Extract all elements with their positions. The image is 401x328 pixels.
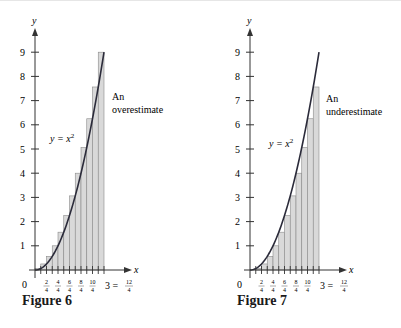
svg-text:2: 2 xyxy=(45,279,48,285)
svg-text:12: 12 xyxy=(341,279,347,285)
y-tick-label: 5 xyxy=(235,144,240,155)
y-tick-label: 7 xyxy=(235,95,240,106)
riemann-bar xyxy=(285,216,291,270)
y-tick-label: 1 xyxy=(235,240,240,251)
y-tick-label: 2 xyxy=(235,216,240,227)
x-tick-fraction: 104 xyxy=(305,279,311,293)
y-tick-label: 9 xyxy=(235,47,240,58)
svg-text:4: 4 xyxy=(57,279,60,285)
svg-text:4: 4 xyxy=(306,287,309,293)
figure-6-caption: Figure 6 xyxy=(22,293,72,309)
riemann-bar xyxy=(302,147,308,270)
annotation-line-2: overestimate xyxy=(112,104,164,115)
x-tick-fraction: 24 xyxy=(259,279,265,293)
svg-text:12: 12 xyxy=(126,279,132,285)
svg-text:3 =: 3 = xyxy=(320,280,334,291)
riemann-bars xyxy=(256,87,319,270)
annotation-line-1: An xyxy=(326,93,338,104)
svg-text:3 =: 3 = xyxy=(105,280,119,291)
riemann-bar xyxy=(308,119,314,270)
origin-label: 0 xyxy=(22,279,27,290)
svg-text:8: 8 xyxy=(80,279,83,285)
curve-label: y = x2 xyxy=(268,137,294,149)
x-tick-fraction: 44 xyxy=(55,279,61,293)
y-axis-label: y xyxy=(246,15,252,26)
x-end-label: 3 =124 xyxy=(105,279,133,293)
x-tick-fraction: 24 xyxy=(44,279,50,293)
svg-text:4: 4 xyxy=(128,287,131,293)
origin-label: 0 xyxy=(237,279,242,290)
riemann-bar xyxy=(279,232,285,270)
y-axis-label: y xyxy=(31,15,37,26)
svg-text:6: 6 xyxy=(68,279,71,285)
x-tick-fraction: 84 xyxy=(293,279,299,293)
y-tick-label: 2 xyxy=(20,216,25,227)
svg-text:10: 10 xyxy=(305,279,311,285)
y-tick-label: 8 xyxy=(235,71,240,82)
y-tick-label: 5 xyxy=(20,144,25,155)
riemann-bar xyxy=(296,173,302,270)
x-tick-fraction: 104 xyxy=(90,279,96,293)
x-tick-fraction: 44 xyxy=(270,279,276,293)
riemann-bar xyxy=(290,196,296,270)
y-tick-label: 9 xyxy=(20,47,25,58)
y-tick-labels: 123456789 xyxy=(20,47,25,252)
y-tick-label: 3 xyxy=(20,192,25,203)
y-axis-arrow-icon xyxy=(32,28,38,36)
riemann-bar xyxy=(273,246,279,270)
svg-text:4: 4 xyxy=(343,287,346,293)
x-tick-labels: 244464841043 =124 xyxy=(259,279,349,293)
riemann-bar xyxy=(52,246,58,270)
y-tick-label: 6 xyxy=(20,119,25,130)
svg-text:10: 10 xyxy=(90,279,96,285)
y-tick-label: 4 xyxy=(235,168,240,179)
y-tick-label: 8 xyxy=(20,71,25,82)
y-axis-arrow-icon xyxy=(247,28,253,36)
annotation-line-1: An xyxy=(112,91,124,102)
svg-text:2: 2 xyxy=(260,279,263,285)
riemann-bar xyxy=(81,147,87,270)
y-tick-labels: 123456789 xyxy=(235,47,240,252)
svg-text:8: 8 xyxy=(295,279,298,285)
riemann-bar xyxy=(313,87,319,270)
y-tick-label: 3 xyxy=(235,192,240,203)
svg-text:4: 4 xyxy=(272,279,275,285)
y-tick-label: 6 xyxy=(235,119,240,130)
x-tick-fraction: 64 xyxy=(67,279,73,293)
x-end-label: 3 =124 xyxy=(320,279,348,293)
x-tick-labels: 244464841043 =124 xyxy=(44,279,134,293)
x-axis-arrow-icon xyxy=(124,267,132,273)
y-tick-label: 1 xyxy=(20,240,25,251)
svg-text:4: 4 xyxy=(91,287,94,293)
x-axis-label: x xyxy=(348,264,354,275)
svg-text:4: 4 xyxy=(295,287,298,293)
x-axis-label: x xyxy=(133,264,139,275)
riemann-bars xyxy=(35,52,104,270)
figure-6-chart: y x 0 123456789 244464841043 =124 An ove… xyxy=(0,0,200,300)
y-tick-label: 4 xyxy=(20,168,25,179)
svg-text:4: 4 xyxy=(80,287,83,293)
figure-7-chart: y x 0 123456789 244464841043 =124 An und… xyxy=(201,0,401,300)
figure-7-caption: Figure 7 xyxy=(237,293,287,309)
x-axis-arrow-icon xyxy=(339,267,347,273)
annotation-line-2: underestimate xyxy=(326,106,383,117)
curve-label: y = x2 xyxy=(49,132,75,144)
y-tick-label: 7 xyxy=(20,95,25,106)
x-tick-fraction: 84 xyxy=(78,279,84,293)
x-tick-fraction: 64 xyxy=(282,279,288,293)
svg-text:6: 6 xyxy=(283,279,286,285)
riemann-bar xyxy=(262,264,268,270)
riemann-bar xyxy=(267,256,273,270)
